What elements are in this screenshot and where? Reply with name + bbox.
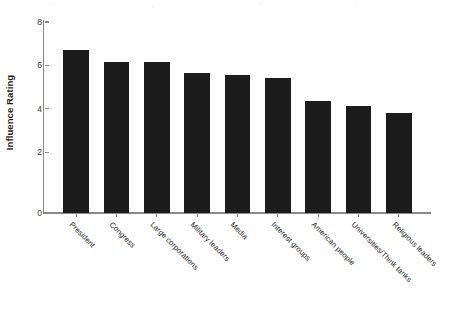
x-label-slot: President [56, 218, 96, 313]
x-label-slot: Universities/Think tanks [338, 218, 378, 313]
bar-congress [104, 62, 130, 213]
bar-slot [379, 22, 419, 213]
y-axis-title: Influence Rating [0, 0, 20, 225]
bar-american-people [305, 101, 331, 213]
x-tick-mark [358, 213, 359, 217]
x-axis-labels: President Congress Large corporations Mi… [44, 218, 429, 313]
y-tick-label-4: 4 [37, 104, 42, 114]
x-tick-mark [398, 213, 399, 217]
y-tick-label-8: 8 [37, 17, 42, 27]
y-tick-label-6: 6 [37, 60, 42, 70]
x-tick-mark [318, 213, 319, 217]
x-label-congress: Congress [108, 220, 138, 250]
x-tick-mark [156, 213, 157, 217]
x-label-slot: American people [298, 218, 338, 313]
bar-slot [258, 22, 298, 213]
bar-slot [338, 22, 378, 213]
bar-slot [96, 22, 136, 213]
x-label-slot: Media [217, 218, 257, 313]
x-label-slot: Military leaders [177, 218, 217, 313]
x-label-slot: Congress [96, 218, 136, 313]
bar-military-leaders [184, 73, 210, 213]
bar-president [63, 50, 89, 213]
bar-slot [137, 22, 177, 213]
bar-chart: Influence Rating 8 6 4 2 0 [0, 0, 450, 319]
bar-universities-think-tanks [346, 106, 372, 213]
x-label-president: President [68, 220, 97, 249]
bar-series [44, 22, 429, 213]
bar-slot [177, 22, 217, 213]
x-tick-mark [116, 213, 117, 217]
x-label-slot: Large corporations [137, 218, 177, 313]
y-tick-label-0: 0 [37, 208, 42, 218]
bar-large-corporations [144, 62, 170, 213]
bar-slot [56, 22, 96, 213]
bar-religious-leaders [386, 113, 412, 213]
x-tick-mark [277, 213, 278, 217]
scan-noise-artifact [0, 0, 450, 10]
y-tick-2: 2 [37, 147, 44, 157]
x-tick-mark [197, 213, 198, 217]
bar-media [225, 75, 251, 213]
y-tick-4: 4 [37, 104, 44, 114]
x-label-slot: Religious leaders [379, 218, 419, 313]
y-tick-label-2: 2 [37, 147, 42, 157]
x-label-media: Media [229, 220, 250, 241]
x-label-slot: Interest groups [258, 218, 298, 313]
bar-slot [217, 22, 257, 213]
x-tick-mark [76, 213, 77, 217]
x-tick-mark [237, 213, 238, 217]
plot-area: 8 6 4 2 0 [44, 22, 429, 213]
bar-slot [298, 22, 338, 213]
y-tick-0: 0 [37, 208, 44, 218]
x-label-religious-leaders: Religious leaders [390, 220, 438, 268]
y-tick-8: 8 [37, 17, 44, 27]
y-axis-title-text: Influence Rating [5, 75, 16, 151]
bar-interest-groups [265, 78, 291, 213]
y-tick-6: 6 [37, 60, 44, 70]
